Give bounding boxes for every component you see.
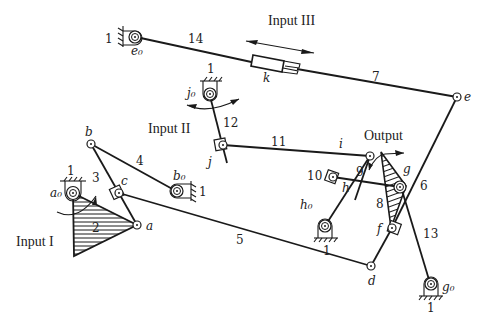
ground-j0 [200,77,222,101]
link-2-crank [73,193,137,256]
ground-h0 [314,219,338,242]
ground-g0 [419,277,443,300]
input-2-title: Input II [148,121,191,136]
link-11 [223,145,370,156]
pin-joints [87,93,461,270]
joint-label-f: f [376,222,384,236]
link-label-2: 2 [92,221,100,235]
link-6 [392,97,457,228]
joint-label-c: c [121,174,128,188]
link-label-10: 10 [307,169,322,183]
ground-label-e0: 1 [105,32,113,46]
link-label-5: 5 [236,233,244,247]
link-label-11: 11 [271,135,286,149]
joint-label-j: j [205,155,212,169]
link-label-9: 9 [356,165,364,179]
link-label-4: 4 [136,154,144,168]
link-label-8: 8 [376,197,384,211]
mechanism-diagram: Input III Input II Input I Output [0,0,490,326]
ground-label-j0: 1 [207,62,215,76]
link-label-3: 3 [92,171,100,185]
joint-label-i: i [339,137,343,151]
joint-label-h: h [342,181,350,195]
joint-label-e: e [464,90,471,104]
output-title: Output [364,128,403,143]
link-5 [119,193,371,266]
link-label-12: 12 [223,116,238,130]
joint-label-e0: e₀ [131,44,143,58]
joint-label-a0: a₀ [50,186,62,200]
link-label-14: 14 [188,32,204,46]
joint-label-b0: b₀ [173,169,186,183]
ground-label-g0: 1 [427,301,435,315]
ground-label-b0: 1 [199,185,207,199]
joint-label-d: d [368,274,376,288]
joint-label-k: k [263,71,270,85]
input-1-title: Input I [16,234,54,249]
joint-label-h0: h₀ [300,198,313,212]
ground-label-h0: 1 [323,244,331,258]
link-label-6: 6 [420,179,428,193]
joint-label-a: a [146,219,153,233]
slider-k [251,55,300,74]
joint-label-g: g [403,162,411,176]
link-label-7: 7 [372,70,380,84]
joint-label-g0: g₀ [442,280,455,294]
ground-b0 [170,181,196,202]
link-label-13: 13 [423,227,438,241]
input-3-title: Input III [268,13,315,28]
joint-label-j0: j₀ [184,86,196,100]
ground-label-a0: 1 [67,164,75,178]
link-d-f [371,228,392,266]
joint-label-b: b [85,125,93,139]
